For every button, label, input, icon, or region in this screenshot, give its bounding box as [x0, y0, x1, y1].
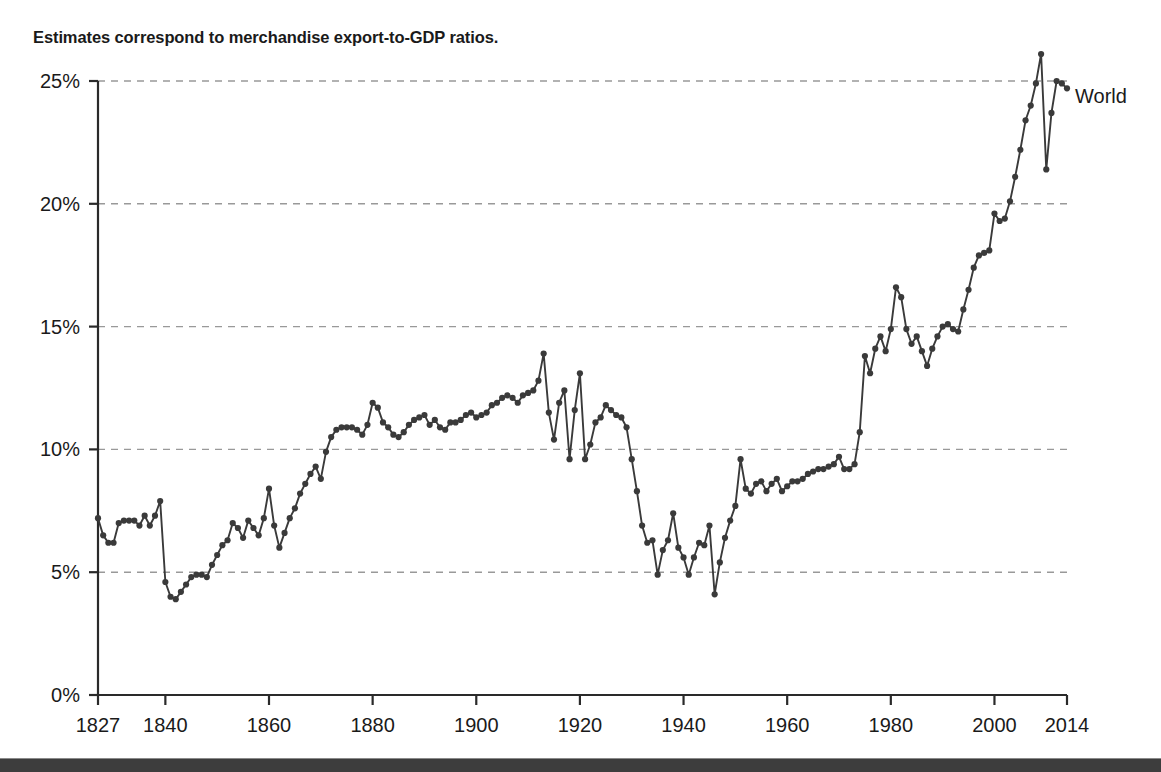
data-point — [318, 476, 324, 482]
data-point — [1033, 80, 1039, 86]
data-point — [748, 491, 754, 497]
x-tick-label-2014: 2014 — [1045, 714, 1090, 736]
y-tick-label-20: 20% — [40, 193, 80, 215]
data-point — [173, 596, 179, 602]
data-point — [680, 554, 686, 560]
data-point — [665, 537, 671, 543]
data-point — [95, 515, 101, 521]
data-point — [458, 417, 464, 423]
data-point — [1028, 102, 1034, 108]
series-label-world: World — [1075, 85, 1127, 107]
data-point — [484, 409, 490, 415]
data-point — [307, 471, 313, 477]
y-tick-label-0: 0% — [51, 684, 80, 706]
data-point — [800, 476, 806, 482]
data-point — [1064, 85, 1070, 91]
data-point — [271, 522, 277, 528]
data-point — [608, 407, 614, 413]
data-point — [872, 346, 878, 352]
data-point — [442, 427, 448, 433]
data-point — [427, 422, 433, 428]
data-point — [603, 402, 609, 408]
data-point — [421, 412, 427, 418]
data-point — [328, 434, 334, 440]
data-point — [370, 400, 376, 406]
data-point — [1038, 51, 1044, 57]
data-point — [468, 409, 474, 415]
data-point — [240, 535, 246, 541]
data-point — [406, 422, 412, 428]
data-point — [934, 333, 940, 339]
data-point — [634, 488, 640, 494]
data-point — [541, 351, 547, 357]
data-point — [261, 515, 267, 521]
data-point — [230, 520, 236, 526]
data-point — [157, 498, 163, 504]
data-point — [313, 463, 319, 469]
bottom-border-band — [0, 758, 1161, 772]
axes-group — [98, 81, 1067, 695]
x-tick-label-1980: 1980 — [869, 714, 914, 736]
data-point — [862, 353, 868, 359]
data-point — [1048, 110, 1054, 116]
data-point — [1012, 174, 1018, 180]
data-point — [883, 348, 889, 354]
data-point — [929, 346, 935, 352]
data-point — [649, 537, 655, 543]
data-point — [960, 306, 966, 312]
y-axis-ticks-group: 0%5%10%15%20%25% — [40, 70, 98, 706]
data-point — [737, 456, 743, 462]
data-point — [836, 454, 842, 460]
data-point — [675, 545, 681, 551]
data-point — [535, 378, 541, 384]
data-point — [577, 370, 583, 376]
data-point — [276, 545, 282, 551]
data-point — [566, 456, 572, 462]
data-point — [639, 522, 645, 528]
data-point — [955, 328, 961, 334]
data-point — [136, 522, 142, 528]
data-point — [572, 407, 578, 413]
data-point — [152, 513, 158, 519]
data-point — [867, 370, 873, 376]
data-point — [209, 562, 215, 568]
data-point — [380, 419, 386, 425]
data-point — [401, 429, 407, 435]
x-tick-label-1860: 1860 — [247, 714, 292, 736]
y-tick-label-15: 15% — [40, 316, 80, 338]
data-point — [888, 326, 894, 332]
data-point — [323, 449, 329, 455]
data-point — [945, 321, 951, 327]
data-point — [758, 478, 764, 484]
data-point — [877, 333, 883, 339]
data-point — [364, 422, 370, 428]
data-point — [297, 491, 303, 497]
data-point — [1017, 147, 1023, 153]
data-point — [898, 294, 904, 300]
x-tick-label-1840: 1840 — [143, 714, 188, 736]
data-point — [354, 427, 360, 433]
data-point — [1059, 80, 1065, 86]
data-point — [986, 247, 992, 253]
data-point — [1022, 117, 1028, 123]
data-point — [582, 456, 588, 462]
data-point — [245, 518, 251, 524]
data-point — [846, 466, 852, 472]
data-point — [924, 363, 930, 369]
data-point — [131, 518, 137, 524]
data-point — [375, 405, 381, 411]
data-point — [965, 287, 971, 293]
data-point — [686, 572, 692, 578]
data-point — [971, 265, 977, 271]
x-tick-label-1900: 1900 — [454, 714, 499, 736]
data-point — [266, 486, 272, 492]
data-point — [893, 284, 899, 290]
data-point — [302, 481, 308, 487]
data-point — [851, 461, 857, 467]
data-point — [224, 537, 230, 543]
data-point — [857, 429, 863, 435]
data-point — [903, 326, 909, 332]
data-point — [110, 540, 116, 546]
data-point — [598, 414, 604, 420]
